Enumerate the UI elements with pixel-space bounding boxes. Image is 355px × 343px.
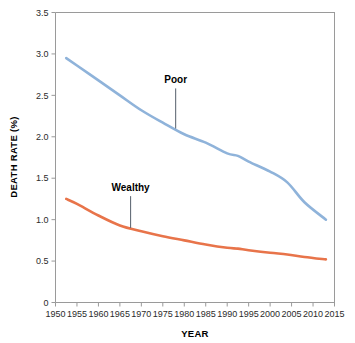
- x-tick-label: 2015: [324, 309, 344, 319]
- x-tick-label: 1955: [67, 309, 87, 319]
- x-tick-label: 1970: [131, 309, 151, 319]
- series-label-poor: Poor: [164, 74, 187, 85]
- x-tick-label: 1965: [110, 309, 130, 319]
- x-tick-label: 1990: [217, 309, 237, 319]
- y-axis-title: DEATH RATE (%): [8, 116, 19, 197]
- y-tick-label: 0.5: [36, 256, 49, 266]
- series-label-wealthy: Wealthy: [112, 182, 151, 193]
- y-tick-label: 2.0: [36, 132, 49, 142]
- x-tick-label: 1980: [174, 309, 194, 319]
- x-tick-label: 2005: [282, 309, 302, 319]
- y-tick-label: 3.5: [36, 8, 49, 18]
- x-tick-label: 1975: [153, 309, 173, 319]
- y-tick-label: 1.0: [36, 215, 49, 225]
- x-tick-label: 1950: [45, 309, 65, 319]
- line-chart: 00.51.01.52.02.53.03.5 19501955196019651…: [0, 0, 355, 343]
- x-tick-label: 2000: [260, 309, 280, 319]
- x-axis-title: YEAR: [181, 328, 209, 339]
- x-tick-label: 2010: [303, 309, 323, 319]
- y-tick-label: 0: [43, 298, 48, 308]
- y-tick-label: 1.5: [36, 173, 49, 183]
- y-tick-label: 2.5: [36, 91, 49, 101]
- x-tick-label: 1995: [239, 309, 259, 319]
- chart-container: 00.51.01.52.02.53.03.5 19501955196019651…: [0, 0, 355, 343]
- y-tick-label: 3.0: [36, 49, 49, 59]
- chart-background: [0, 0, 355, 343]
- x-tick-label: 1985: [196, 309, 216, 319]
- x-tick-label: 1960: [88, 309, 108, 319]
